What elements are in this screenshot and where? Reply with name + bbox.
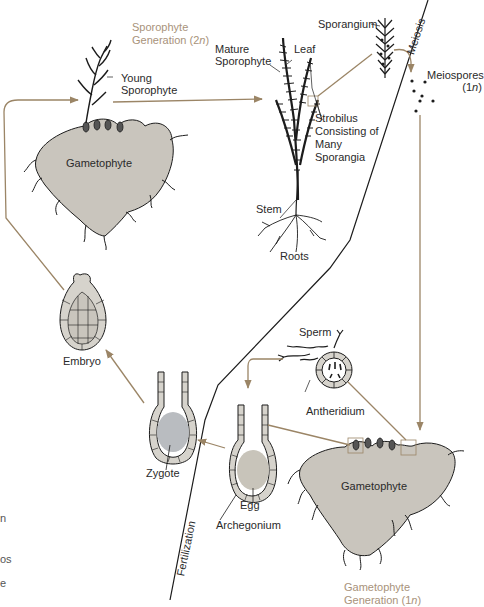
left-edge-fragment-2: os: [0, 553, 12, 565]
leaf-label: Leaf: [294, 43, 315, 55]
line-archegonium-detail: [268, 425, 350, 445]
sporangium-label: Sporangium: [318, 18, 377, 30]
archegonium-label: Archegonium: [216, 519, 281, 531]
strobilus-label: Strobilus Consisting of Many Sporangia: [315, 112, 379, 164]
left-edge-fragment-3: e: [0, 577, 6, 589]
roots-label: Roots: [280, 250, 309, 262]
zygote-label: Zygote: [146, 467, 180, 479]
arrow-strobilus-to-sporangium: [318, 54, 372, 96]
gametophyte-thallus-top: [35, 119, 173, 236]
antheridium: [316, 352, 352, 388]
gametophyte-generation-label: Gametophyte Generation (1n): [344, 581, 421, 607]
zygote-archegonium: [149, 372, 196, 470]
arrow-zygote-to-embryo: [106, 350, 144, 403]
gametophyte-thallus-bottom: [299, 441, 455, 555]
stem-label: Stem: [256, 203, 282, 215]
roots: [258, 215, 326, 252]
embryo-label: Embryo: [63, 355, 101, 367]
gametophyte-thallus-bottom-group: [288, 438, 464, 570]
young-sporophyte-label: Young Sporophyte: [121, 72, 177, 96]
meiospores-label: Meiospores (1n): [427, 69, 484, 93]
sporangium-strobilus: [376, 18, 394, 78]
mature-sporophyte-label: Mature Sporophyte: [215, 43, 271, 67]
antheridium-label: Antheridium: [306, 405, 365, 417]
egg-cell: [237, 450, 269, 490]
gametophyte-top-label: Gametophyte: [66, 157, 132, 169]
sporophyte-generation-label: Sporophyte Generation (2n): [132, 21, 209, 47]
young-sporophyte-plant: [78, 40, 111, 123]
arrow-young-to-mature: [113, 99, 262, 102]
sperm-label: Sperm: [299, 326, 331, 338]
gametophyte-bottom-label: Gametophyte: [341, 480, 407, 492]
embryo: [60, 274, 106, 350]
arrow-egg-to-zygote: [198, 440, 225, 448]
left-edge-fragment-1: n: [0, 512, 6, 524]
cycle-arrows: [4, 50, 420, 449]
arrow-sperm-to-archegonium: [248, 359, 283, 388]
zygote-cell: [157, 412, 189, 452]
egg-label: Egg: [240, 499, 260, 511]
